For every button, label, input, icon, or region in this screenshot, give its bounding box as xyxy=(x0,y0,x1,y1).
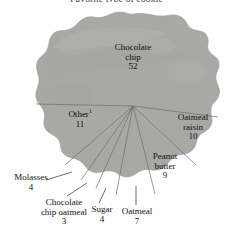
slice-value-oatmeal: 7 xyxy=(114,217,160,227)
slice-label-molasses: Molasses 4 xyxy=(2,173,60,192)
slice-label-other-text: Other xyxy=(68,109,89,119)
slice-value-chocolate-chip: 52 xyxy=(96,62,170,72)
slice-value-oatmeal-raisin: 10 xyxy=(161,132,225,142)
slice-label-oatmeal: Oatmeal 7 xyxy=(114,207,160,226)
slice-value-peanut-butter: 9 xyxy=(139,171,191,181)
slice-value-other: 11 xyxy=(55,120,105,130)
slice-label-oatmeal-raisin: Oatmeal raisin 10 xyxy=(161,113,225,142)
slice-label-chocolate-chip: Chocolate chip 52 xyxy=(96,43,170,72)
cookie-pie-chart: Favorite type of cookie xyxy=(0,0,233,241)
slice-value-molasses: 4 xyxy=(2,183,60,193)
slice-label-peanut-butter: Peanut butter 9 xyxy=(139,152,191,181)
footnote-marker-other: 1 xyxy=(89,108,92,114)
leader-chocolate-chip-oatmeal xyxy=(67,183,87,196)
cookie-body xyxy=(36,12,220,177)
slice-label-other: Other1 11 xyxy=(55,110,105,129)
